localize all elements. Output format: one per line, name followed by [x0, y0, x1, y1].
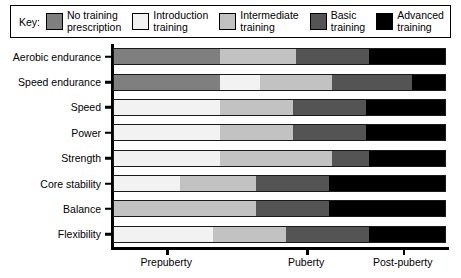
x-axis-ticks [113, 250, 446, 255]
bar-row-strength [113, 146, 446, 171]
legend-label-basic: Basic training [331, 10, 365, 33]
legend-entry-basic: Basic training [310, 10, 365, 33]
bar-segment-speed-intermediate-training [220, 100, 293, 115]
bar-segment-power-intermediate-training [220, 125, 293, 140]
x-axis-label-post-puberty: Post-puberty [373, 256, 433, 268]
y-axis-label-aerobic-endurance: Aerobic endurance [0, 44, 104, 69]
bar-segment-core-stability-advanced-training [329, 176, 445, 191]
bar-segment-aerobic-endurance-advanced-training [369, 49, 445, 64]
bar-segment-strength-advanced-training [369, 151, 445, 166]
x-axis-labels: PrepubertyPubertyPost-puberty [0, 256, 461, 276]
stacked-bar-core-stability [113, 175, 446, 192]
x-axis-label-prepuberty: Prepuberty [141, 256, 192, 268]
y-axis-label-speed: Speed [0, 95, 104, 120]
legend-label-introduction: Introduction training [153, 10, 208, 33]
bar-segment-speed-endurance-advanced-training [412, 75, 445, 90]
legend-swatch-basic [310, 13, 327, 30]
bar-row-speed [113, 95, 446, 120]
bar-segment-balance-basic-training [256, 201, 329, 216]
x-axis-label-puberty: Puberty [288, 256, 324, 268]
bar-segment-strength-introduction-training [114, 151, 220, 166]
bar-segment-speed-endurance-introduction-training [220, 75, 260, 90]
y-axis-label-core-stability: Core stability [0, 171, 104, 196]
bar-segment-aerobic-endurance-intermediate-training [220, 49, 296, 64]
y-axis-label-balance: Balance [0, 196, 104, 221]
stacked-bar-chart: Key: No training prescription Introducti… [0, 0, 461, 278]
x-axis-tick-post-puberty [403, 250, 406, 255]
y-axis-label-flexibility: Flexibility [0, 222, 104, 247]
legend-swatch-introduction [132, 13, 149, 30]
bar-row-speed-endurance [113, 69, 446, 94]
bar-segment-speed-endurance-basic-training [332, 75, 411, 90]
bar-row-balance [113, 196, 446, 221]
bar-segment-flexibility-advanced-training [369, 227, 445, 242]
legend-label-no-training: No training prescription [67, 10, 121, 33]
bars-container [113, 44, 446, 247]
legend-entry-no-training: No training prescription [46, 10, 121, 33]
stacked-bar-aerobic-endurance [113, 48, 446, 65]
bar-segment-speed-advanced-training [366, 100, 445, 115]
bar-segment-power-basic-training [293, 125, 366, 140]
y-axis-labels: Aerobic endurance Speed endurance Speed … [0, 44, 104, 247]
y-axis-label-power: Power [0, 120, 104, 145]
x-axis-tick-prepuberty [166, 250, 169, 255]
legend-entry-intermediate: Intermediate training [219, 10, 298, 33]
bar-segment-speed-basic-training [293, 100, 366, 115]
legend-entry-advanced: Advanced training [376, 10, 444, 33]
stacked-bar-speed-endurance [113, 74, 446, 91]
legend-label-advanced: Advanced training [397, 10, 444, 33]
x-axis-tick-puberty [306, 250, 309, 255]
bar-segment-balance-intermediate-training [114, 201, 256, 216]
legend-label-intermediate: Intermediate training [240, 10, 298, 33]
y-axis-label-strength: Strength [0, 146, 104, 171]
bar-segment-core-stability-intermediate-training [180, 176, 256, 191]
bar-segment-speed-introduction-training [114, 100, 220, 115]
bar-segment-speed-endurance-no-training-prescription [114, 75, 220, 90]
legend-swatch-advanced [376, 13, 393, 30]
stacked-bar-flexibility [113, 226, 446, 243]
stacked-bar-strength [113, 150, 446, 167]
stacked-bar-speed [113, 99, 446, 116]
legend-items: No training prescription Introduction tr… [46, 10, 446, 33]
bar-segment-power-introduction-training [114, 125, 220, 140]
bar-segment-balance-advanced-training [329, 201, 445, 216]
bar-segment-strength-intermediate-training [220, 151, 333, 166]
bar-segment-aerobic-endurance-basic-training [296, 49, 369, 64]
stacked-bar-balance [113, 200, 446, 217]
stacked-bar-power [113, 124, 446, 141]
bar-segment-flexibility-introduction-training [114, 227, 213, 242]
bar-row-aerobic-endurance [113, 44, 446, 69]
y-axis-label-speed-endurance: Speed endurance [0, 69, 104, 94]
legend-entry-introduction: Introduction training [132, 10, 208, 33]
bar-row-core-stability [113, 171, 446, 196]
bar-segment-core-stability-introduction-training [114, 176, 180, 191]
bar-segment-strength-basic-training [332, 151, 368, 166]
legend-swatch-no-training [46, 13, 63, 30]
bar-row-flexibility [113, 222, 446, 247]
chart-legend: Key: No training prescription Introducti… [10, 5, 451, 38]
bar-segment-flexibility-intermediate-training [213, 227, 286, 242]
bar-segment-speed-endurance-intermediate-training [260, 75, 333, 90]
bar-segment-core-stability-basic-training [256, 176, 329, 191]
legend-swatch-intermediate [219, 13, 236, 30]
bar-segment-flexibility-basic-training [286, 227, 369, 242]
legend-title: Key: [19, 16, 40, 28]
bar-segment-aerobic-endurance-no-training-prescription [114, 49, 220, 64]
bar-segment-power-advanced-training [366, 125, 445, 140]
plot-area: Aerobic endurance Speed endurance Speed … [0, 44, 461, 278]
bar-row-power [113, 120, 446, 145]
